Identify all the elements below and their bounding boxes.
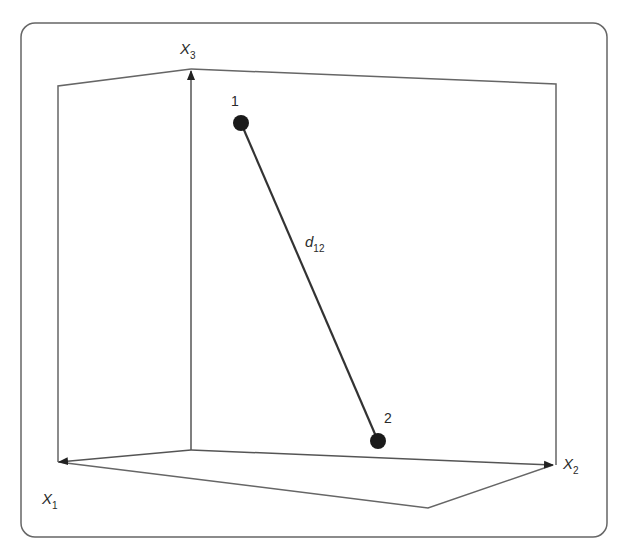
x1-axis-label: X1 [42,490,58,510]
x2-axis-label: X2 [563,455,579,475]
point-2 [370,433,386,449]
point-2-label: 2 [384,410,392,426]
point-1 [233,115,249,131]
x1-axis [59,450,191,462]
point-1-label: 1 [231,93,239,109]
floor-plane [58,462,553,508]
left-plane [58,69,191,462]
distance-line [241,123,378,441]
distance-label: d12 [305,233,324,253]
x2-axis [191,450,553,465]
x3-axis-label: X3 [180,40,196,60]
diagram-canvas [0,0,624,554]
outer-frame [21,23,607,537]
